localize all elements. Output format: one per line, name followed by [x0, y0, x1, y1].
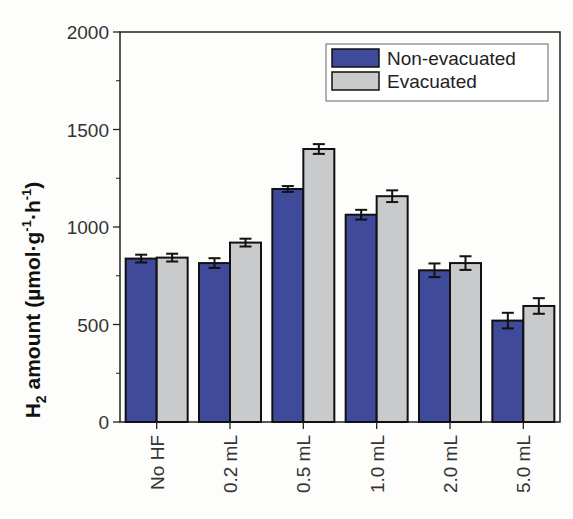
x-tick-label: 1.0 mL	[367, 435, 388, 493]
bar-non-evacuated	[126, 259, 157, 422]
bar-evacuated	[303, 149, 334, 422]
x-tick-label: No HF	[147, 435, 168, 490]
bar-evacuated	[157, 258, 188, 422]
y-tick-label: 0	[98, 412, 109, 433]
bar-evacuated	[450, 263, 481, 422]
y-axis-label: H2 amount (µmol·g-1·h-1)	[19, 182, 49, 419]
bar-evacuated	[523, 306, 554, 422]
x-tick-label: 0.5 mL	[293, 435, 314, 493]
y-tick-label: 1000	[67, 217, 109, 238]
y-tick-label: 500	[77, 315, 109, 336]
bar-non-evacuated	[419, 270, 450, 422]
x-tick-label: 5.0 mL	[513, 435, 534, 493]
bar-evacuated	[230, 243, 261, 422]
x-tick-label: 0.2 mL	[220, 435, 241, 493]
bar-chart: 0500100015002000 No HF0.2 mL0.5 mL1.0 mL…	[0, 0, 573, 519]
legend-label: Non-evacuated	[387, 48, 516, 69]
legend-label: Evacuated	[387, 71, 477, 92]
bar-evacuated	[377, 196, 408, 422]
bar-non-evacuated	[272, 189, 303, 422]
y-axis: 0500100015002000	[67, 22, 120, 433]
legend: Non-evacuatedEvacuated	[326, 44, 548, 101]
x-axis: No HF0.2 mL0.5 mL1.0 mL2.0 mL5.0 mL	[147, 422, 535, 493]
x-tick-label: 2.0 mL	[440, 435, 461, 493]
y-tick-label: 2000	[67, 22, 109, 43]
bar-non-evacuated	[492, 321, 523, 422]
y-tick-label: 1500	[67, 120, 109, 141]
bar-non-evacuated	[346, 215, 377, 422]
bar-non-evacuated	[199, 263, 230, 422]
